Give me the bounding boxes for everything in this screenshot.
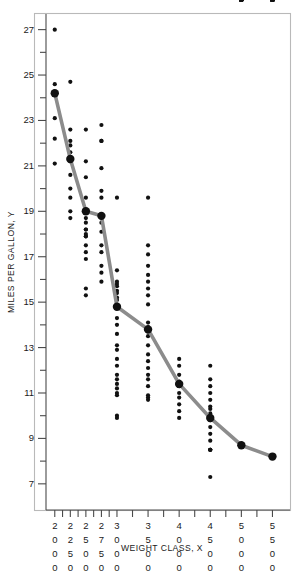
data-point: [84, 175, 88, 179]
data-point: [53, 116, 57, 120]
y-tick-label: 15: [23, 296, 34, 307]
data-point: [68, 209, 72, 213]
data-point: [84, 232, 88, 236]
data-point: [115, 323, 119, 327]
y-tick-label: 11: [24, 387, 34, 398]
x-tick-label-digit: 0: [239, 534, 244, 545]
data-point: [208, 475, 212, 479]
class-mean-point: [82, 207, 90, 215]
data-point: [115, 416, 119, 420]
data-point: [84, 159, 88, 163]
data-point: [115, 373, 119, 377]
data-point: [53, 137, 57, 141]
data-point: [99, 250, 103, 254]
data-point: [84, 286, 88, 290]
data-point: [115, 196, 119, 200]
class-mean-point: [66, 155, 74, 163]
data-point: [146, 280, 150, 284]
x-tick-label-digit: 5: [99, 548, 104, 559]
data-point: [99, 271, 103, 275]
data-point: [99, 166, 103, 170]
x-axis-title: WEIGHT CLASS, X: [121, 543, 203, 553]
data-point: [146, 243, 150, 247]
y-tick-label: 23: [23, 114, 34, 125]
data-point: [68, 80, 72, 84]
data-point: [68, 139, 72, 143]
class-mean-point: [113, 302, 121, 310]
x-tick-label-digit: 0: [177, 562, 182, 573]
data-point: [115, 393, 119, 397]
data-point: [146, 293, 150, 297]
x-tick-label-digit: 0: [208, 548, 213, 559]
x-tick-label-digit: 4: [208, 520, 213, 531]
data-point: [115, 332, 119, 336]
class-mean-point: [144, 325, 152, 333]
data-point: [146, 343, 150, 347]
x-tick-label-digit: 2: [83, 520, 88, 531]
data-point: [146, 377, 150, 381]
class-mean-point: [97, 212, 105, 220]
data-point: [115, 364, 119, 368]
data-point: [146, 384, 150, 388]
data-point: [68, 196, 72, 200]
data-point: [177, 409, 181, 413]
data-point: [68, 216, 72, 220]
y-tick-label: 13: [23, 342, 34, 353]
data-point: [84, 127, 88, 131]
x-tick-label-digit: 3: [114, 520, 119, 531]
data-point: [99, 280, 103, 284]
data-point: [99, 243, 103, 247]
data-point: [115, 386, 119, 390]
data-point: [146, 320, 150, 324]
x-tick-label-digit: 0: [145, 562, 150, 573]
x-tick-label-digit: 0: [239, 548, 244, 559]
data-point: [146, 252, 150, 256]
data-point: [208, 384, 212, 388]
x-tick-label-digit: 0: [83, 562, 88, 573]
x-tick-label-digit: 0: [270, 562, 275, 573]
data-point: [146, 373, 150, 377]
x-tick-label-digit: 3: [145, 520, 150, 531]
data-point: [99, 264, 103, 268]
data-point: [208, 364, 212, 368]
x-tick-label-digit: 2: [52, 520, 57, 531]
y-tick-label: 21: [23, 160, 34, 171]
y-tick-label: 25: [23, 69, 34, 80]
x-tick-label-digit: 5: [239, 520, 244, 531]
data-point: [99, 189, 103, 193]
data-point: [146, 264, 150, 268]
data-point: [208, 425, 212, 429]
data-point: [177, 391, 181, 395]
x-tick-label-digit: 5: [270, 520, 275, 531]
x-tick-label-digit: 5: [83, 534, 88, 545]
data-point: [208, 398, 212, 402]
x-tick-label-digit: 0: [68, 562, 73, 573]
x-tick-label-digit: 7: [99, 534, 104, 545]
scatter-chart: 79111315171921232527 2000225025002750300…: [0, 0, 302, 587]
data-point: [115, 382, 119, 386]
chart-root: 79111315171921232527 2000225025002750300…: [0, 0, 302, 587]
class-mean-point: [237, 441, 245, 449]
data-point: [115, 343, 119, 347]
x-tick-label-digit: 4: [177, 520, 182, 531]
x-tick-label-digit: 0: [114, 562, 119, 573]
y-axis-title: MILES PER GALLON, Y: [6, 211, 16, 313]
x-tick-label-digit: 0: [239, 562, 244, 573]
x-tick-label-digit: 0: [52, 548, 57, 559]
data-point: [84, 196, 88, 200]
data-point: [99, 196, 103, 200]
x-tick-label-digit: 0: [114, 534, 119, 545]
data-point: [53, 162, 57, 166]
data-point: [115, 316, 119, 320]
data-point: [68, 173, 72, 177]
data-point: [84, 257, 88, 261]
x-tick-label-digit: 0: [83, 548, 88, 559]
data-point: [208, 407, 212, 411]
data-point: [177, 373, 181, 377]
data-point: [177, 357, 181, 361]
data-point: [115, 268, 119, 272]
data-point: [208, 432, 212, 436]
data-point: [208, 391, 212, 395]
y-tick-label: 19: [23, 205, 34, 216]
data-point: [84, 250, 88, 254]
